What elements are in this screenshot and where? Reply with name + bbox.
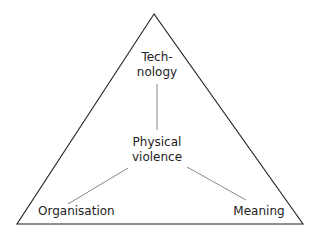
node-meaning: Meaning [232,204,286,219]
connector-center-organisation [68,168,128,204]
node-organisation: Organisation [38,204,114,219]
node-technology-line2: nology [127,65,187,80]
node-physical-violence-line1: Physical [122,135,192,150]
connector-center-meaning [187,167,246,200]
node-physical-violence-line2: violence [122,150,192,165]
node-technology-line1: Tech- [127,50,187,65]
triangle-outline [17,14,303,224]
node-physical-violence: Physical violence [122,135,192,165]
node-technology: Tech- nology [127,50,187,80]
